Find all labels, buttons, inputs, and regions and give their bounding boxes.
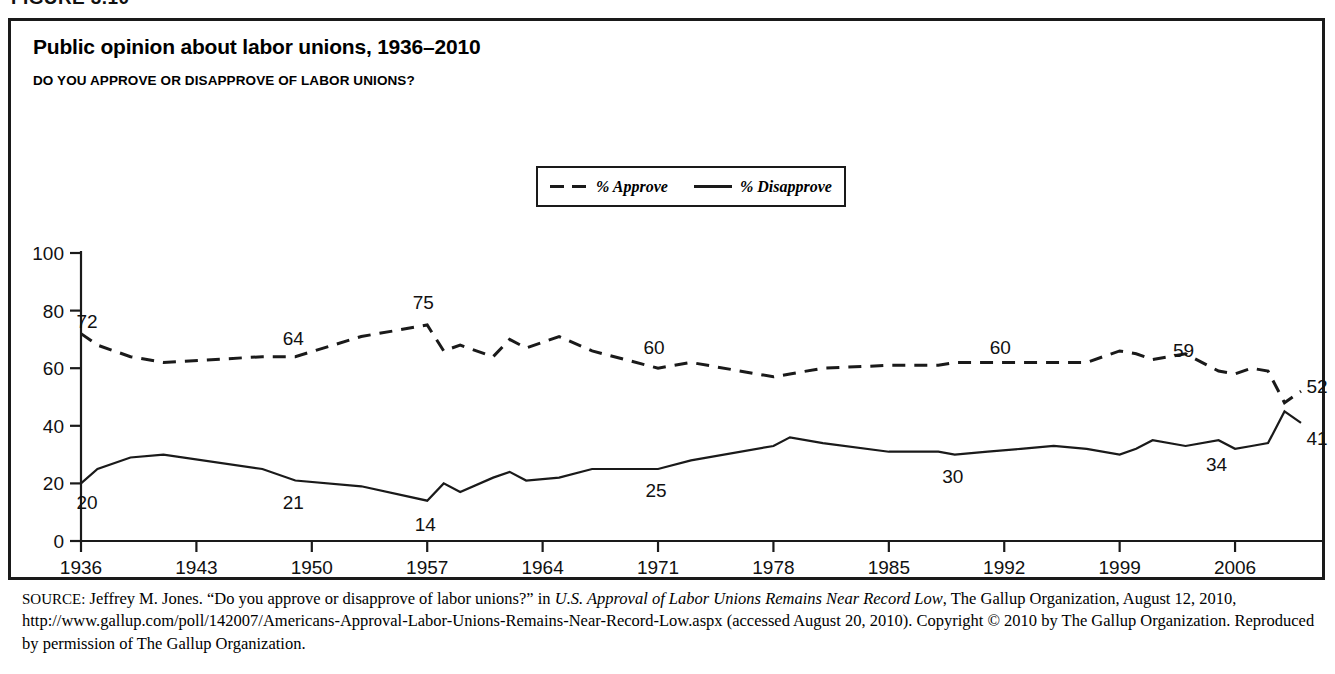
data-label: 21 bbox=[283, 492, 304, 513]
data-label: 25 bbox=[645, 480, 666, 501]
y-axis-tick-label: 100 bbox=[32, 243, 64, 264]
x-axis-tick-label: 1978 bbox=[752, 557, 794, 577]
y-axis-tick-label: 80 bbox=[43, 301, 64, 322]
x-axis-tick-label: 1999 bbox=[1099, 557, 1141, 577]
chart-plot: 0204060801001936194319501957196419711978… bbox=[11, 21, 1328, 577]
source-note: SOURCE: Jeffrey M. Jones. “Do you approv… bbox=[22, 588, 1322, 655]
data-label: 75 bbox=[413, 292, 434, 313]
x-axis-tick-label: 1971 bbox=[637, 557, 679, 577]
source-text-1: Jeffrey M. Jones. “Do you approve or dis… bbox=[85, 589, 554, 608]
x-axis-tick-label: 1950 bbox=[291, 557, 333, 577]
x-axis-tick-label: 1936 bbox=[60, 557, 102, 577]
x-axis-tick-label: 1992 bbox=[983, 557, 1025, 577]
data-label: 30 bbox=[942, 466, 963, 487]
x-axis-tick-label: 1985 bbox=[868, 557, 910, 577]
data-label: 59 bbox=[1173, 340, 1194, 361]
x-axis-tick-label: 1964 bbox=[521, 557, 564, 577]
x-axis-tick-label: 2006 bbox=[1214, 557, 1256, 577]
x-axis-tick-label: 1943 bbox=[175, 557, 217, 577]
data-label: 60 bbox=[990, 337, 1011, 358]
data-label: 72 bbox=[76, 311, 97, 332]
figure-box: Public opinion about labor unions, 1936–… bbox=[8, 18, 1325, 580]
series-line-approve bbox=[81, 325, 1301, 403]
y-axis-tick-label: 40 bbox=[43, 416, 64, 437]
data-label: 60 bbox=[643, 337, 664, 358]
series-line-disapprove bbox=[81, 411, 1301, 500]
data-label: 52 bbox=[1306, 376, 1327, 397]
source-italic-title: U.S. Approval of Labor Unions Remains Ne… bbox=[555, 589, 943, 608]
data-label: 20 bbox=[76, 492, 97, 513]
data-label: 14 bbox=[415, 514, 437, 535]
data-label: 64 bbox=[283, 328, 305, 349]
y-axis-tick-label: 20 bbox=[43, 473, 64, 494]
x-axis-tick-label: 1957 bbox=[406, 557, 448, 577]
data-label: 41 bbox=[1306, 428, 1327, 449]
source-tag: SOURCE: bbox=[22, 591, 85, 607]
figure-label: FIGURE 3.10 bbox=[11, 0, 129, 9]
y-axis-tick-label: 60 bbox=[43, 358, 64, 379]
data-label: 34 bbox=[1206, 454, 1228, 475]
y-axis-tick-label: 0 bbox=[53, 531, 64, 552]
